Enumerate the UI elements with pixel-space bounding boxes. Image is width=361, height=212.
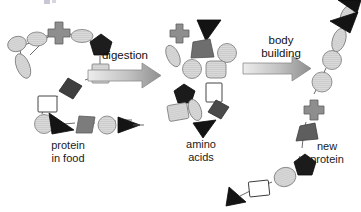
top-crop-artifact <box>44 0 56 4</box>
amino-acid-triangle-dark <box>197 20 221 41</box>
amino-acid-cross <box>304 100 324 120</box>
amino-acid-circle-light <box>312 72 332 92</box>
amino-acid-trapezoid <box>296 123 318 141</box>
amino-acid-triangle-dark <box>193 120 216 138</box>
amino-acid-circle-light <box>98 116 116 134</box>
amino-acid-cross <box>48 22 70 44</box>
body-building-label: body building <box>248 34 314 60</box>
stage-new-protein <box>226 0 361 206</box>
amino-acid-circle-light <box>183 60 202 79</box>
amino-acid-square-light <box>167 102 189 121</box>
amino-acid-trapezoid <box>76 116 95 133</box>
amino-acid-square-white <box>38 96 57 112</box>
stage-amino-acids <box>163 20 237 138</box>
amino-acid-ellipse <box>27 32 47 46</box>
digestion-label: digestion <box>90 49 160 62</box>
amino-acid-square-light <box>206 61 226 78</box>
amino-acid-ellipse <box>6 34 29 54</box>
amino-acid-diamond-dark <box>59 78 82 99</box>
amino-acid-square-white <box>248 180 269 197</box>
amino-acid-cross <box>170 24 189 43</box>
amino-acid-circle-light <box>272 165 299 190</box>
amino-acid-diamond-dark <box>208 100 229 119</box>
diagram-canvas: digestion body building protein in food … <box>0 0 361 212</box>
amino-acid-circle-light <box>323 51 342 70</box>
amino-acid-ellipse <box>12 52 34 81</box>
amino-acids-label: amino acids <box>168 138 234 163</box>
amino-acid-ellipse <box>71 30 93 43</box>
amino-acid-square-white <box>206 83 222 102</box>
amino-acid-circle-light <box>218 44 237 63</box>
amino-acid-triangle-dark <box>226 187 246 206</box>
protein-digestion-diagram <box>0 0 361 212</box>
amino-acid-ellipse <box>163 43 184 69</box>
amino-acid-trapezoid <box>191 39 214 58</box>
new-protein-label: new protein <box>296 140 358 165</box>
protein-in-food-label: protein in food <box>31 139 105 164</box>
